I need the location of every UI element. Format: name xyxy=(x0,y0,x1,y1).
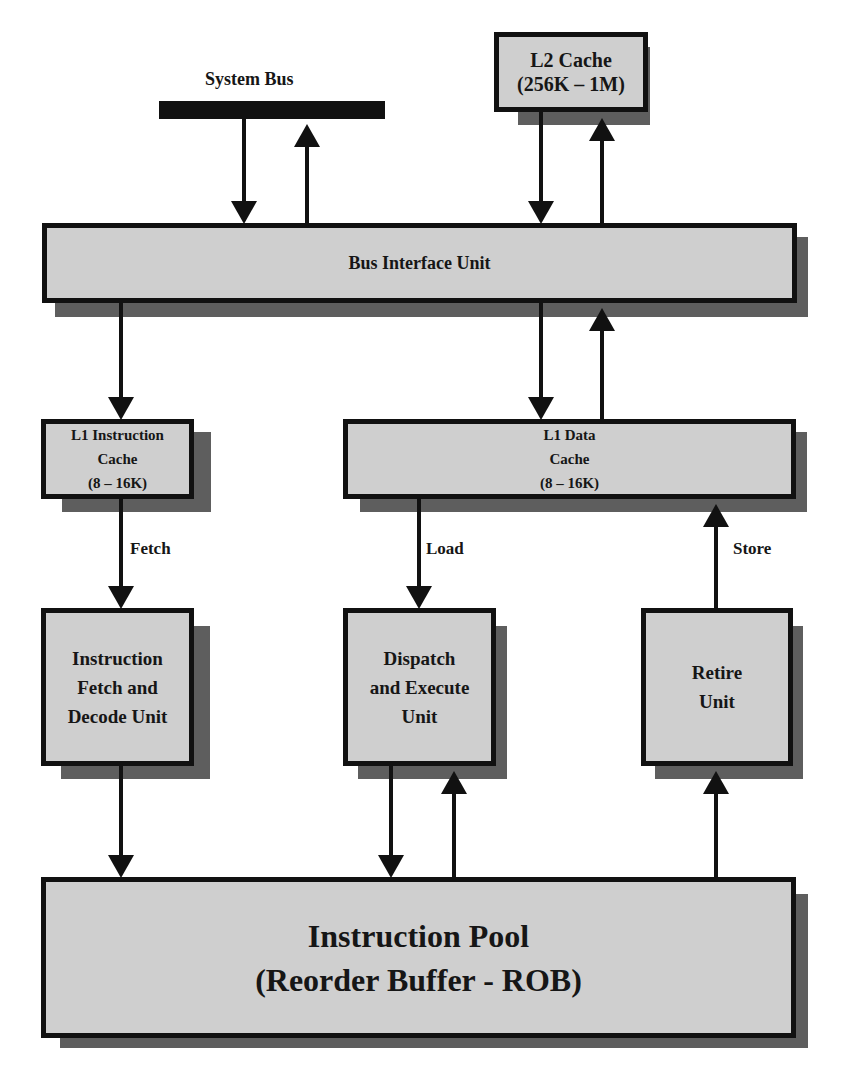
diagram-canvas: System Bus L2 Cache (256K – 1M) Bus Inte… xyxy=(0,0,846,1081)
arrowhead-up-icon xyxy=(589,308,615,331)
arrowhead-down-icon xyxy=(108,855,134,878)
arrowhead-down-icon xyxy=(108,586,134,609)
connection-arrows xyxy=(0,0,846,1081)
arrowhead-up-icon xyxy=(294,124,320,147)
arrowhead-up-icon xyxy=(703,504,729,527)
arrowhead-up-icon xyxy=(703,771,729,794)
arrowhead-down-icon xyxy=(378,855,404,878)
arrowhead-up-icon xyxy=(589,118,615,141)
arrowhead-up-icon xyxy=(441,771,467,794)
arrowhead-down-icon xyxy=(406,586,432,609)
arrowhead-down-icon xyxy=(231,201,257,224)
arrowhead-down-icon xyxy=(108,397,134,420)
arrowhead-down-icon xyxy=(528,201,554,224)
arrowhead-down-icon xyxy=(528,397,554,420)
